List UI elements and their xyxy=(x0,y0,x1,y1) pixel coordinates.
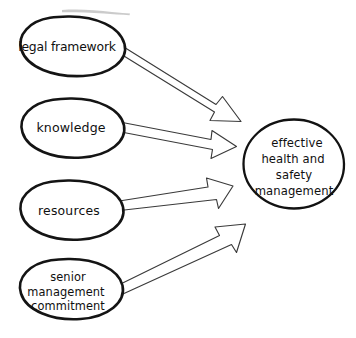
target-label-line2: health and xyxy=(261,152,324,166)
target-label-line3: safety xyxy=(276,168,312,182)
hand-drawn-diagram: legal framework knowledge resources seni… xyxy=(0,0,356,338)
node-resources[interactable]: resources xyxy=(20,180,123,239)
smudge-artifact xyxy=(62,10,130,16)
arrow-resources xyxy=(115,178,234,211)
node-knowledge[interactable]: knowledge xyxy=(21,98,124,157)
legal-framework-label: legal framework xyxy=(18,39,117,54)
node-senior-management-commitment[interactable]: senior management commitment xyxy=(20,259,123,319)
senior-management-commitment-label-line3: commitment xyxy=(31,299,105,313)
target-label-line1: effective xyxy=(271,136,322,150)
senior-management-commitment-label-line2: management xyxy=(27,285,105,299)
arrow-knowledge xyxy=(118,122,237,159)
node-effective-health-and-safety-management[interactable]: effective health and safety management xyxy=(244,120,345,209)
arrow-legal-framework xyxy=(120,47,241,122)
diagram-canvas: legal framework knowledge resources seni… xyxy=(0,0,356,338)
target-label-line4: management xyxy=(255,184,334,198)
arrow-senior-management-commitment xyxy=(115,224,246,296)
senior-management-commitment-label-line1: senior xyxy=(50,270,86,284)
node-legal-framework[interactable]: legal framework xyxy=(18,16,125,76)
knowledge-label: knowledge xyxy=(36,120,105,135)
resources-label: resources xyxy=(38,203,100,218)
